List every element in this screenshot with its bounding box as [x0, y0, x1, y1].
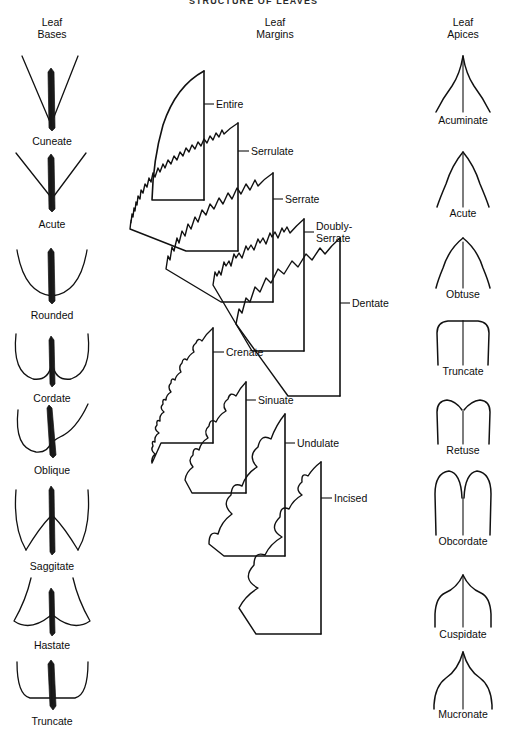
leaf-apex-acute-drawing [437, 152, 489, 207]
leaf-apex-label-truncate: Truncate [413, 365, 507, 377]
leaf-apex-obcordate-drawing [435, 471, 491, 535]
leaf-apex-label-mucronate: Mucronate [413, 708, 507, 720]
leaf-apex-retuse-drawing [437, 400, 490, 444]
leaf-apex-obtuse-drawing [436, 238, 490, 288]
leaf-apex-label-retuse: Retuse [413, 444, 507, 456]
leaf-apex-label-cuspidate: Cuspidate [413, 628, 507, 640]
leaf-apex-mucronate-drawing [434, 652, 492, 709]
leaf-apex-label-obtuse: Obtuse [413, 288, 507, 300]
leaf-apex-label-acute: Acute [413, 207, 507, 219]
leaf-apex-label-obcordate: Obcordate [413, 535, 507, 547]
leaf-apex-acuminate-drawing [436, 56, 490, 112]
leaf-apex-cuspidate-drawing [435, 575, 491, 627]
leaf-apex-truncate-drawing [437, 321, 489, 365]
leaf-apex-label-acuminate: Acuminate [413, 114, 507, 126]
